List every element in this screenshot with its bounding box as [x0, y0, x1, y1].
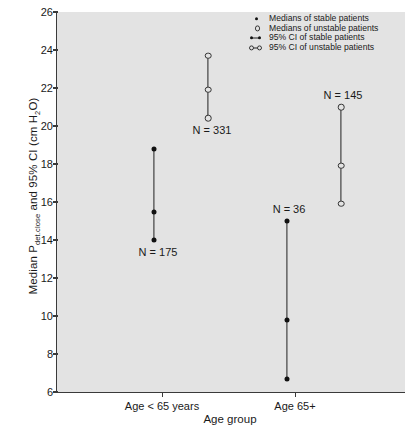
median-marker: [205, 87, 212, 94]
confidence-interval-line: [340, 107, 341, 204]
ci-endpoint-marker: [152, 146, 157, 151]
ci-endpoint-marker: [338, 201, 345, 208]
y-axis-tick-mark: [53, 391, 58, 392]
ci-endpoint-marker: [285, 376, 290, 381]
x-axis-tick-label: Age 65+: [274, 400, 315, 412]
confidence-interval-line: [153, 149, 154, 240]
x-axis-tick-label: Age < 65 years: [125, 400, 199, 412]
y-axis-tick-mark: [53, 353, 58, 354]
open-interval-icon: [246, 43, 268, 53]
legend-item-label: 95% CI of unstable patients: [268, 43, 374, 53]
ci-endpoint-marker: [285, 219, 290, 224]
x-axis-tick-mark: [295, 392, 296, 397]
y-axis-tick-mark: [53, 277, 58, 278]
sample-size-label: N = 331: [193, 124, 232, 136]
median-marker: [338, 163, 345, 170]
y-axis-tick-mark: [53, 11, 58, 12]
ci-endpoint-marker: [152, 238, 157, 243]
filled-circle-icon: [246, 14, 268, 24]
y-axis-tick-mark: [53, 239, 58, 240]
y-axis-tick-mark: [53, 49, 58, 50]
x-axis-title: Age group: [56, 413, 404, 425]
ci-endpoint-marker: [338, 104, 345, 111]
ci-endpoint-marker: [205, 115, 212, 122]
filled-interval-icon: [246, 33, 268, 43]
sample-size-label: N = 145: [324, 89, 363, 101]
y-axis-tick-mark: [53, 201, 58, 202]
x-axis-tick-mark: [162, 392, 163, 397]
sample-size-label: N = 36: [273, 203, 306, 215]
y-axis-title-subscript-2: 2: [33, 111, 42, 115]
median-marker: [285, 317, 290, 322]
ci-endpoint-marker: [205, 52, 212, 59]
median-marker: [152, 209, 157, 214]
legend-item: 95% CI of unstable patients: [246, 43, 378, 53]
y-axis-title-text: Median Pdet.close and 95% CI (cm H2O): [27, 98, 39, 295]
chart-legend: Medians of stable patientsMedians of uns…: [246, 14, 378, 52]
y-axis-tick-mark: [53, 163, 58, 164]
y-axis-tick-mark: [53, 315, 58, 316]
confidence-interval-line: [286, 221, 287, 379]
y-axis-tick-mark: [53, 87, 58, 88]
chart-figure: Median Pdet.close and 95% CI (cm H2O) 68…: [0, 0, 408, 432]
y-axis-tick-mark: [53, 125, 58, 126]
sample-size-label: N = 175: [139, 246, 178, 258]
plot-area: 68101214161820222426 Age < 65 yearsAge 6…: [56, 12, 405, 393]
open-circle-icon: [246, 24, 268, 34]
